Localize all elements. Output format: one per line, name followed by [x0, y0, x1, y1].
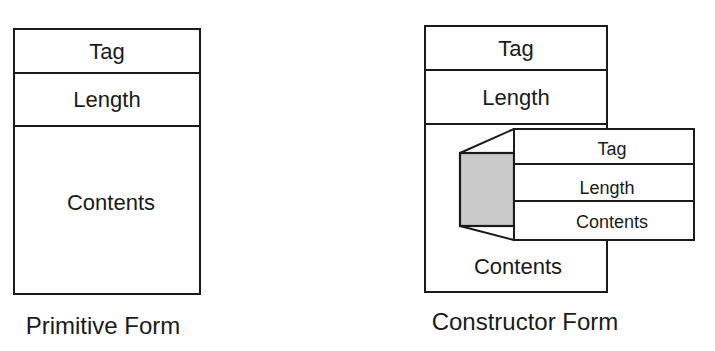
constructor-form: Tag Length Contents Tag Length Contents …	[425, 26, 694, 335]
nested-tlv: Tag Length Contents	[514, 129, 694, 240]
constructor-contents-label: Contents	[474, 254, 562, 279]
constructor-tag-label: Tag	[498, 36, 533, 61]
primitive-caption: Primitive Form	[26, 312, 181, 339]
primitive-length-label: Length	[73, 87, 140, 112]
nested-tag-label: Tag	[597, 139, 626, 159]
nested-element-highlight	[460, 153, 514, 226]
nested-contents-label: Contents	[576, 212, 648, 232]
nested-length-label: Length	[579, 178, 634, 198]
tlv-encoding-diagram: Tag Length Contents Primitive Form Tag L…	[0, 0, 715, 351]
primitive-form: Tag Length Contents Primitive Form	[14, 29, 200, 339]
primitive-tag-label: Tag	[89, 39, 124, 64]
constructor-length-label: Length	[482, 85, 549, 110]
constructor-caption: Constructor Form	[432, 308, 619, 335]
primitive-outer-box	[14, 29, 200, 294]
primitive-contents-label: Contents	[67, 190, 155, 215]
